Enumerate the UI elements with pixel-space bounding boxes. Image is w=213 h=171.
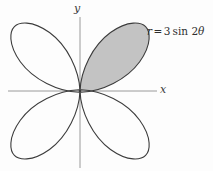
- petal-quadrant-2: [11, 23, 80, 92]
- equation-sin-function: sin: [171, 25, 189, 37]
- equation-equals-sign: =: [152, 25, 164, 37]
- y-axis-label: y: [74, 3, 80, 14]
- x-axis-label: x: [160, 84, 166, 95]
- equation-amplitude: 3: [164, 25, 171, 37]
- shaded-petal-quadrant-1: [80, 23, 149, 92]
- petal-quadrant-4: [80, 90, 149, 159]
- equation-theta-symbol: θ: [198, 25, 204, 37]
- curve-equation-label: r=3sin 2θ: [147, 26, 204, 37]
- polar-rose-figure: y x r=3sin 2θ: [0, 0, 213, 171]
- petal-quadrant-3: [11, 90, 80, 159]
